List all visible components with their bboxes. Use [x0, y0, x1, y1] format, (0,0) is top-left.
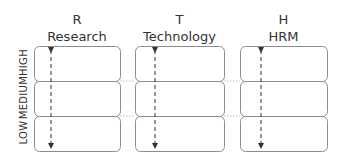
box-technology-medium	[136, 82, 225, 117]
column-technology-boxes	[136, 47, 225, 152]
matrix-diagram	[0, 0, 344, 163]
box-research-high	[35, 47, 121, 82]
box-hrm-medium	[241, 82, 328, 117]
box-hrm-low	[241, 117, 328, 152]
box-technology-low	[136, 117, 225, 152]
box-hrm-high	[241, 47, 328, 82]
box-technology-high	[136, 47, 225, 82]
column-research-boxes	[35, 47, 121, 152]
box-research-medium	[35, 82, 121, 117]
column-hrm-boxes	[241, 47, 328, 152]
box-research-low	[35, 117, 121, 152]
